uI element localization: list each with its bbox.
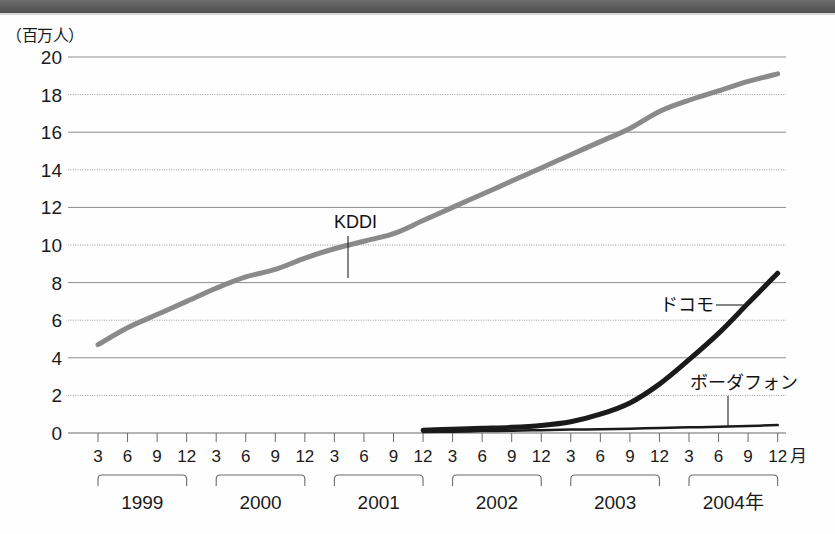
year-label-2: 2001 — [358, 492, 400, 513]
x-tick-label-11: 12 — [414, 447, 433, 466]
gridlines — [68, 57, 786, 395]
x-tick-label-17: 6 — [596, 447, 605, 466]
x-tick-label-3: 12 — [177, 447, 196, 466]
year-bracket-2 — [334, 475, 423, 486]
year-brackets — [98, 475, 778, 486]
y-tick-label-10: 10 — [41, 235, 62, 256]
chart-page: （百万人） 02468101214161820 3691236912369123… — [0, 0, 835, 534]
y-tick-label-4: 4 — [51, 348, 62, 369]
x-tick-label-12: 3 — [448, 447, 457, 466]
y-axis-tick-labels: 02468101214161820 — [41, 47, 63, 444]
x-tick-label-18: 9 — [625, 447, 634, 466]
line-chart: 02468101214161820 3691236912369123691236… — [0, 0, 835, 534]
x-tick-label-7: 12 — [295, 447, 314, 466]
x-tick-label-2: 9 — [152, 447, 161, 466]
year-bracket-4 — [571, 475, 660, 486]
y-tick-label-14: 14 — [41, 160, 63, 181]
x-tick-label-5: 6 — [241, 447, 250, 466]
y-tick-label-0: 0 — [51, 423, 62, 444]
annotation-label-ドコモ: ドコモ — [660, 295, 714, 315]
x-tick-label-6: 9 — [271, 447, 280, 466]
x-tick-label-8: 3 — [330, 447, 339, 466]
y-tick-label-8: 8 — [51, 273, 62, 294]
year-label-1: 2000 — [239, 492, 281, 513]
y-tick-label-18: 18 — [41, 85, 62, 106]
annotation-label-KDDI: KDDI — [334, 212, 377, 232]
annotation-label-ボーダフォン: ボーダフォン — [690, 373, 798, 393]
x-tick-label-14: 9 — [507, 447, 516, 466]
x-tick-label-9: 6 — [359, 447, 368, 466]
y-tick-label-16: 16 — [41, 122, 62, 143]
x-tick-label-10: 9 — [389, 447, 398, 466]
x-tick-label-21: 6 — [714, 447, 723, 466]
x-tick-label-0: 3 — [93, 447, 102, 466]
x-tick-label-23: 12 — [768, 447, 787, 466]
x-tick-label-19: 12 — [650, 447, 669, 466]
x-tick-label-22: 9 — [743, 447, 752, 466]
year-label-0: 1999 — [121, 492, 163, 513]
x-axis — [68, 433, 786, 442]
x-tick-suffix: 月 — [790, 447, 807, 466]
year-label-3: 2002 — [476, 492, 518, 513]
year-labels: 199920002001200220032004年 — [121, 492, 764, 513]
y-tick-label-2: 2 — [51, 385, 62, 406]
year-bracket-5 — [689, 475, 778, 486]
data-series — [98, 74, 778, 432]
series-line-ドコモ — [423, 273, 778, 430]
year-label-5: 2004年 — [703, 492, 764, 513]
x-tick-label-4: 3 — [211, 447, 220, 466]
x-tick-label-1: 6 — [123, 447, 132, 466]
series-annotations: KDDIドコモボーダフォン — [334, 212, 798, 427]
x-tick-label-13: 6 — [477, 447, 486, 466]
y-tick-label-20: 20 — [41, 47, 62, 68]
y-tick-label-6: 6 — [51, 310, 62, 331]
x-tick-label-16: 3 — [566, 447, 575, 466]
x-axis-tick-labels: 369123691236912369123691236912月 — [93, 447, 806, 466]
year-bracket-1 — [216, 475, 305, 486]
x-tick-label-20: 3 — [684, 447, 693, 466]
year-bracket-3 — [453, 475, 542, 486]
y-tick-label-12: 12 — [41, 197, 62, 218]
year-label-4: 2003 — [594, 492, 636, 513]
x-tick-label-15: 12 — [532, 447, 551, 466]
year-bracket-0 — [98, 475, 187, 486]
